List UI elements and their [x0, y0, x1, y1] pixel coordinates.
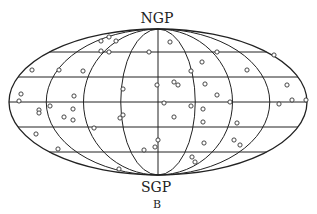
source-marker	[190, 155, 194, 159]
source-marker	[200, 60, 204, 64]
source-marker	[285, 83, 289, 87]
source-marker	[238, 143, 242, 147]
source-marker	[201, 120, 205, 124]
panel-label: B	[153, 198, 161, 211]
source-marker	[37, 111, 41, 115]
coordinate-grid	[9, 29, 307, 175]
source-marker	[193, 160, 197, 164]
source-marker	[147, 50, 151, 54]
source-marker	[92, 126, 96, 130]
source-marker	[114, 39, 118, 43]
source-marker	[107, 35, 111, 39]
source-marker	[19, 92, 23, 96]
source-marker	[121, 113, 125, 117]
source-marker	[107, 50, 111, 54]
source-marker	[277, 102, 281, 106]
source-marker	[155, 83, 159, 87]
source-marker	[34, 132, 38, 136]
source-marker	[228, 100, 232, 104]
source-marker	[215, 50, 219, 54]
source-marker	[201, 107, 205, 111]
source-marker	[172, 80, 176, 84]
source-marker	[290, 98, 294, 102]
south-galactic-pole-label: SGP	[141, 179, 171, 195]
source-marker	[99, 49, 103, 53]
source-marker	[71, 118, 75, 122]
source-marker	[156, 138, 160, 142]
source-marker	[153, 145, 157, 149]
source-marker	[172, 115, 176, 119]
source-marker	[272, 53, 276, 57]
source-marker	[121, 87, 125, 91]
source-marker	[245, 68, 249, 72]
source-marker	[99, 39, 103, 43]
source-marker	[117, 167, 121, 171]
source-markers	[17, 35, 308, 171]
source-marker	[232, 138, 236, 142]
source-marker	[162, 101, 166, 105]
source-marker	[142, 148, 146, 152]
source-marker	[72, 94, 76, 98]
source-marker	[168, 40, 172, 44]
source-marker	[56, 147, 60, 151]
sky-map-figure: NGP SGP B	[0, 0, 317, 214]
source-marker	[71, 107, 75, 111]
source-marker	[176, 83, 180, 87]
source-marker	[203, 82, 207, 86]
source-marker	[48, 104, 52, 108]
source-marker	[62, 115, 66, 119]
source-marker	[57, 68, 61, 72]
source-marker	[17, 99, 21, 103]
source-marker	[235, 121, 239, 125]
source-marker	[81, 69, 85, 73]
source-marker	[304, 98, 308, 102]
source-marker	[189, 104, 193, 108]
source-marker	[30, 68, 34, 72]
north-galactic-pole-label: NGP	[141, 10, 174, 26]
source-marker	[202, 141, 206, 145]
source-marker	[189, 69, 193, 73]
source-marker	[215, 93, 219, 97]
